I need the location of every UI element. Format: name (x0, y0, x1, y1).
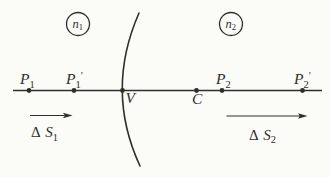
refraction-at-spherical-surface-figure: n1 n2 P1 P1′ V C P2 P2′ ΔS1 ΔS2 (0, 0, 331, 177)
point-dot-p2 (220, 88, 225, 93)
medium1-subscript: 1 (79, 22, 83, 32)
p2-subscript: 2 (225, 79, 230, 90)
point-dot-vertex (120, 88, 125, 93)
s2-subscript: 2 (271, 134, 276, 145)
p2-base: P (215, 70, 226, 87)
medium2-label: n2 (226, 17, 237, 33)
point-label-vertex: V (126, 89, 137, 106)
medium1-label: n1 (73, 17, 84, 33)
point-label-p2: P2 (215, 70, 231, 90)
shift-label-s2: ΔS2 (249, 127, 276, 146)
p2-prime-mark: ′ (309, 70, 311, 81)
point-label-p2-prime: P2′ (293, 70, 311, 90)
p1-base: P (19, 70, 30, 87)
p2-prime-base: P (293, 70, 304, 87)
s2-delta-symbol: Δ (249, 127, 259, 143)
p1-prime-base: P (65, 70, 76, 87)
s1-delta-symbol: Δ (31, 124, 41, 140)
medium2-subscript: 2 (232, 22, 236, 32)
point-label-p1: P1 (19, 70, 35, 90)
figure-canvas: n1 n2 P1 P1′ V C P2 P2′ ΔS1 ΔS2 (0, 0, 331, 177)
point-label-center: C (192, 90, 203, 107)
shift-label-s1: ΔS1 (31, 124, 58, 143)
p1-prime-mark: ′ (81, 70, 83, 81)
vertex-base: V (126, 89, 137, 106)
point-label-p1-prime: P1′ (65, 70, 83, 90)
s1-subscript: 1 (53, 132, 58, 143)
p1-subscript: 1 (29, 79, 34, 90)
center-base: C (192, 90, 203, 107)
